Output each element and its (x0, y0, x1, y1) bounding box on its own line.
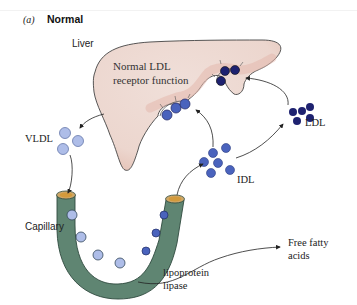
vldl-particles (58, 128, 84, 155)
arrow-liver-to-vldl (80, 114, 104, 128)
capillary-label: Capillary (25, 221, 64, 232)
vldl-label: VLDL (25, 133, 53, 144)
arrow-vldl-to-capillary (68, 155, 72, 193)
panel-letter: (a) (23, 14, 35, 25)
idl-particles (200, 144, 235, 178)
free-fatty-acids-label: Free fatty acids (288, 236, 348, 262)
ldl-label: LDL (305, 117, 325, 128)
panel-title: Normal (47, 13, 83, 25)
arrow-idl-to-liver (196, 110, 213, 147)
idl-label: IDL (237, 174, 255, 185)
arrow-capillary-to-idl (177, 164, 203, 195)
lipoprotein-metabolism-diagram: (a) Normal Liver Normal LDL receptor fun… (0, 0, 357, 305)
arrow-idl-to-ldl (236, 124, 283, 158)
liver-label: Liver (72, 38, 94, 49)
liver-note-label: Normal LDL receptor function (113, 60, 203, 87)
arrow-ldl-to-liver (246, 78, 288, 105)
lipoprotein-lipase-label: lipoprotein lipase (163, 266, 233, 292)
